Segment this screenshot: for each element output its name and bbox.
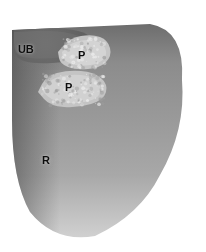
anatomical-figure: UB P P R	[0, 0, 206, 252]
anatomical-section-image	[0, 0, 206, 252]
